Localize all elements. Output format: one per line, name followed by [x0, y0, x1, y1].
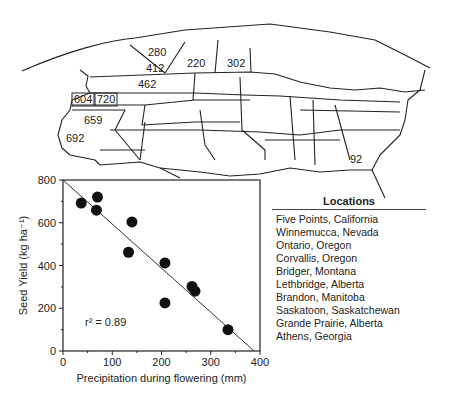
- legend-item: Winnemucca, Nevada: [276, 226, 450, 239]
- legend-item: Corvallis, Oregon: [276, 252, 450, 265]
- x-tick-label: 0: [60, 356, 66, 368]
- y-tick-label: 400: [38, 260, 56, 272]
- y-tick-label: 200: [38, 302, 56, 314]
- map-yield-label: 604: [74, 93, 92, 105]
- data-point: [189, 286, 200, 297]
- map-yield-label: 280: [148, 46, 166, 58]
- data-point: [187, 281, 198, 292]
- legend-title: Locations: [272, 195, 426, 210]
- data-point: [91, 205, 102, 216]
- map-yield-label: 220: [187, 57, 205, 69]
- x-tick-label: 400: [251, 356, 269, 368]
- legend: Locations Five Points, CaliforniaWinnemu…: [272, 195, 450, 343]
- map-yield-label: 302: [227, 57, 245, 69]
- data-point: [159, 297, 170, 308]
- data-point: [159, 257, 170, 268]
- y-tick-label: 600: [38, 217, 56, 229]
- x-tick-label: 200: [152, 356, 170, 368]
- legend-item: Five Points, California: [276, 213, 450, 226]
- y-axis-label: Seed Yield (kg ha⁻¹): [17, 216, 29, 316]
- data-point: [222, 324, 233, 335]
- map-yield-label: 720: [97, 93, 115, 105]
- legend-item: Saskatoon, Saskatchewan: [276, 304, 450, 317]
- x-axis-label: Precipitation during flowering (mm): [77, 372, 247, 384]
- map-yield-label: 92: [350, 153, 362, 165]
- legend-item: Ontario, Oregon: [276, 239, 450, 252]
- map-outline-north: [22, 24, 430, 71]
- legend-item: Grande Prairie, Alberta: [276, 317, 450, 330]
- north-america-map: 28041222030246260472065969292: [0, 0, 450, 200]
- r-squared-annotation: r² = 0.89: [85, 316, 126, 328]
- legend-item: Athens, Georgia: [276, 330, 450, 343]
- legend-item: Lethbridge, Alberta: [276, 278, 450, 291]
- x-tick-label: 100: [103, 356, 121, 368]
- map-gulf-coast: [160, 168, 372, 176]
- map-yield-label: 659: [84, 114, 102, 126]
- data-point: [126, 216, 137, 227]
- map-yield-label: 412: [146, 62, 164, 74]
- x-tick-label: 300: [202, 356, 220, 368]
- y-tick-label: 0: [50, 345, 56, 357]
- regression-line: [63, 180, 254, 351]
- map-east-coast: [372, 70, 425, 198]
- data-point: [123, 247, 134, 258]
- legend-list: Five Points, CaliforniaWinnemucca, Nevad…: [272, 213, 450, 343]
- map-yield-label: 692: [66, 132, 84, 144]
- map-yield-label: 462: [138, 78, 156, 90]
- plot-area: [63, 180, 260, 351]
- legend-item: Brandon, Manitoba: [276, 291, 450, 304]
- legend-item: Bridger, Montana: [276, 265, 450, 278]
